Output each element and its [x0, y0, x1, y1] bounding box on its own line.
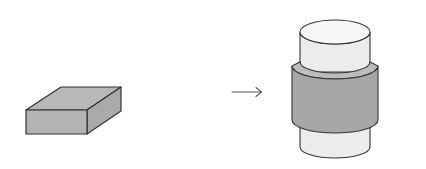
cylinder-top-face	[300, 20, 370, 44]
block-front-face	[26, 110, 87, 134]
diagram-canvas	[0, 0, 426, 169]
banded-cylinder	[292, 20, 378, 158]
rectangular-block	[26, 87, 121, 134]
diagram-svg	[0, 0, 426, 169]
transform-arrow	[232, 88, 262, 97]
